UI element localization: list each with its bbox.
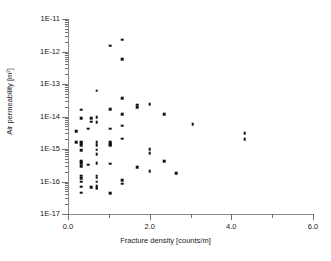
data-point [90, 120, 93, 123]
y-tick-minor [65, 85, 68, 86]
y-tick-minor [65, 183, 68, 184]
y-tick-minor [65, 97, 68, 98]
y-tick-minor [65, 120, 68, 121]
y-tick-minor [65, 20, 68, 21]
y-tick-minor [65, 124, 68, 125]
x-tick-major [150, 214, 151, 220]
data-point [95, 187, 98, 190]
y-tick-label: 1E-16 [40, 178, 60, 186]
y-tick-minor [65, 101, 68, 102]
y-tick-minor [65, 162, 68, 163]
y-tick-minor [65, 36, 68, 37]
data-point [80, 180, 83, 183]
y-tick-minor [65, 89, 68, 90]
data-point [148, 148, 151, 151]
data-point [80, 191, 83, 194]
y-tick-minor [65, 94, 68, 95]
y-tick-minor [65, 53, 68, 54]
data-point [163, 160, 166, 163]
data-point [95, 162, 98, 165]
data-point [121, 38, 124, 41]
y-tick-minor [65, 61, 68, 62]
y-tick-minor [65, 129, 68, 130]
y-tick-label: 1E-13 [40, 80, 60, 88]
data-point [175, 172, 178, 175]
data-point [148, 152, 151, 155]
y-tick-label: 1E-15 [40, 145, 60, 153]
data-point [95, 89, 98, 92]
y-tick-minor [65, 68, 68, 69]
y-tick-label: 1E-14 [40, 113, 60, 121]
data-point [244, 138, 247, 141]
y-tick-minor [65, 126, 68, 127]
y-tick-minor [65, 87, 68, 88]
data-point [121, 124, 124, 127]
x-tick-label: 0.0 [63, 223, 73, 231]
data-point [109, 144, 112, 147]
x-tick-major [231, 214, 232, 220]
data-point [95, 116, 98, 119]
data-point [90, 117, 93, 120]
data-point [136, 106, 139, 109]
y-tick-minor [65, 159, 68, 160]
data-point [80, 109, 83, 112]
y-tick-minor [65, 32, 68, 33]
data-point [191, 123, 194, 126]
data-point [121, 97, 124, 100]
y-tick-minor [65, 152, 68, 153]
data-point [148, 170, 151, 173]
data-point [75, 130, 78, 133]
y-tick-minor [65, 22, 68, 23]
y-tick-minor [65, 187, 68, 188]
y-tick-minor [65, 24, 68, 25]
data-point [109, 192, 112, 195]
y-tick-minor [65, 42, 68, 43]
y-tick-minor [65, 194, 68, 195]
y-tick-minor [65, 166, 68, 167]
y-tick-minor [65, 59, 68, 60]
y-tick-minor [65, 191, 68, 192]
y-tick-minor [65, 139, 68, 140]
y-tick-minor [65, 189, 68, 190]
data-point [90, 186, 93, 189]
y-tick-minor [65, 64, 68, 65]
y-tick-minor [65, 150, 68, 151]
data-point [95, 121, 98, 124]
data-point [121, 182, 124, 185]
y-tick-minor [65, 204, 68, 205]
data-point [95, 153, 98, 156]
y-tick-minor [65, 156, 68, 157]
x-tick-major [68, 214, 69, 220]
y-tick-minor [65, 185, 68, 186]
data-point [136, 166, 139, 169]
y-tick-minor [65, 57, 68, 58]
data-point [109, 44, 112, 47]
data-point [244, 132, 247, 135]
data-point [109, 163, 112, 166]
data-point [80, 144, 83, 147]
x-tick-label: 4.0 [226, 223, 236, 231]
data-point [80, 117, 83, 120]
data-point [148, 103, 151, 106]
y-tick-label: 1E-11 [41, 15, 60, 23]
data-point [80, 185, 83, 188]
plot-area: 1E-111E-121E-131E-141E-151E-161E-17 0.02… [68, 19, 313, 214]
y-tick-minor [65, 198, 68, 199]
x-tick-minor [109, 214, 110, 218]
data-point [109, 127, 112, 130]
data-point [121, 179, 124, 182]
data-point [95, 144, 98, 147]
data-point [95, 148, 98, 151]
data-point [121, 113, 124, 116]
y-tick-minor [65, 122, 68, 123]
y-tick-label: 1E-12 [40, 48, 60, 56]
y-tick-label: 1E-17 [40, 210, 60, 218]
x-tick-label: 6.0 [308, 223, 318, 231]
data-point [95, 180, 98, 183]
data-point [121, 58, 124, 61]
y-tick-minor [65, 29, 68, 30]
data-point [80, 165, 83, 168]
y-tick-minor [65, 91, 68, 92]
y-tick-minor [65, 107, 68, 108]
x-axis-title: Fracture density [counts/m] [0, 236, 331, 245]
